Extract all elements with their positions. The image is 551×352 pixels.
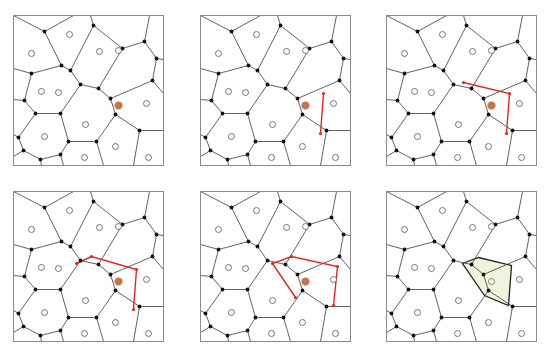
voronoi-vertex — [468, 316, 472, 320]
voronoi-edge — [14, 16, 45, 32]
voronoi-edge — [32, 66, 62, 74]
voronoi-edge — [201, 192, 232, 208]
site-point — [39, 265, 45, 271]
site-point — [254, 32, 260, 38]
voronoi-edge — [206, 138, 211, 151]
voronoi-edge — [444, 71, 454, 85]
voronoi-edge — [392, 114, 409, 138]
site-point — [229, 310, 235, 316]
voronoi-edge — [232, 192, 261, 208]
site-point — [254, 208, 260, 214]
voronoi-edge — [211, 151, 228, 160]
voronoi-edge — [434, 114, 442, 142]
voronoi-edge — [454, 85, 472, 89]
new-site-point — [116, 279, 122, 285]
voronoi-vertex — [39, 334, 43, 338]
voronoi-edge — [472, 89, 484, 99]
voronoi-vertex — [284, 87, 288, 91]
site-point — [517, 277, 523, 283]
voronoi-vertex — [266, 83, 270, 87]
voronoi-edge — [248, 142, 256, 155]
voronoi-vertex — [34, 112, 38, 116]
voronoi-edge — [14, 245, 32, 250]
voronoi-edge — [434, 85, 454, 114]
voronoi-edge — [298, 81, 340, 99]
voronoi-vertex — [338, 79, 342, 83]
voronoi-vertex — [246, 329, 250, 333]
voronoi-edge — [219, 242, 249, 250]
new-site-point — [303, 103, 309, 109]
site-point — [300, 320, 306, 326]
voronoi-vertex — [470, 87, 474, 91]
trace-vertex — [322, 92, 325, 95]
trace-vertex — [508, 92, 511, 95]
voronoi-edge — [219, 66, 249, 74]
voronoi-edge — [25, 250, 32, 277]
voronoi-vertex — [109, 273, 113, 277]
site-point — [429, 266, 435, 272]
site-point — [29, 51, 35, 57]
panel-step-6-final-cell — [386, 191, 537, 342]
voronoi-vertex — [416, 30, 420, 34]
voronoi-edge — [303, 115, 327, 131]
voronoi-edge — [99, 49, 123, 89]
voronoi-vertex — [204, 312, 208, 316]
voronoi-edge — [123, 218, 145, 225]
voronoi-vertex — [256, 245, 260, 249]
voronoi-edge — [434, 290, 442, 318]
voronoi-vertex — [390, 136, 394, 140]
voronoi-vertex — [79, 259, 83, 263]
voronoi-edge — [321, 131, 327, 166]
site-point — [42, 134, 48, 140]
site-point — [303, 48, 309, 54]
voronoi-vertex — [114, 113, 118, 117]
voronoi-vertex — [217, 248, 221, 252]
voronoi-edge — [81, 85, 99, 89]
voronoi-edge — [444, 26, 467, 71]
panel-frame — [14, 16, 164, 166]
voronoi-edge — [41, 331, 61, 336]
voronoi-edge — [206, 314, 211, 327]
voronoi-edge — [45, 32, 62, 66]
voronoi-edge — [134, 131, 140, 166]
voronoi-edge — [286, 89, 298, 99]
site-point — [270, 298, 276, 304]
voronoi-edge — [45, 192, 74, 208]
voronoi-edge — [99, 265, 111, 275]
new-site-point — [116, 103, 122, 109]
voronoi-vertex — [432, 153, 436, 157]
voronoi-edge — [45, 16, 74, 32]
voronoi-edge — [201, 69, 219, 74]
voronoi-vertex — [342, 57, 346, 61]
voronoi-vertex — [210, 275, 214, 279]
site-point — [486, 144, 492, 150]
voronoi-vertex — [43, 206, 47, 210]
voronoi-vertex — [210, 99, 214, 103]
voronoi-vertex — [254, 316, 258, 320]
voronoi-vertex — [95, 140, 99, 144]
voronoi-diagram — [200, 191, 351, 342]
voronoi-vertex — [226, 334, 230, 338]
voronoi-vertex — [221, 112, 225, 116]
voronoi-edge — [116, 291, 140, 307]
voronoi-vertex — [279, 200, 283, 204]
voronoi-vertex — [59, 288, 63, 292]
voronoi-vertex — [395, 325, 399, 329]
voronoi-vertex — [155, 233, 159, 237]
panel-frame — [201, 192, 351, 342]
voronoi-vertex — [433, 64, 437, 68]
panel-frame — [201, 16, 351, 166]
voronoi-vertex — [114, 289, 118, 293]
site-point — [284, 225, 290, 231]
voronoi-vertex — [452, 259, 456, 263]
voronoi-edge — [71, 247, 81, 261]
voronoi-edge — [145, 42, 157, 59]
site-point — [243, 266, 249, 272]
voronoi-edge — [387, 192, 418, 208]
voronoi-vertex — [282, 140, 286, 144]
voronoi-edge — [201, 245, 219, 250]
voronoi-edge — [303, 291, 327, 307]
voronoi-vertex — [109, 97, 113, 101]
voronoi-vertex — [296, 97, 300, 101]
trace-vertex — [332, 304, 335, 307]
